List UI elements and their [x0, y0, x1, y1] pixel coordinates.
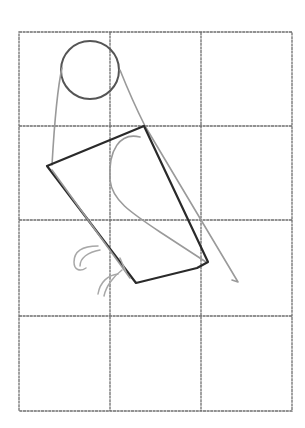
- body-side-guide: [52, 170, 130, 278]
- foot-toe-1: [74, 246, 98, 270]
- grid-border: [19, 32, 292, 411]
- back-guide-line: [52, 68, 62, 165]
- body-outline: [47, 126, 208, 283]
- drawing-canvas: [0, 0, 305, 428]
- sketch-svg: [0, 0, 305, 428]
- foot-toe-4: [104, 270, 122, 296]
- feet: [74, 246, 126, 296]
- grid: [19, 32, 292, 411]
- foot-toe-2: [80, 250, 100, 266]
- front-guide-line: [120, 70, 238, 282]
